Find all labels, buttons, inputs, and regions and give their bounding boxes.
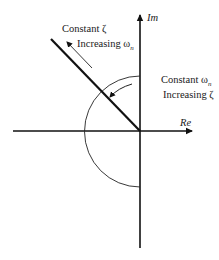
constant-zeta-label: Constant ζ xyxy=(62,23,106,35)
s-plane-diagram: Im Re Constant ζ Increasing ωn Constant … xyxy=(0,0,219,260)
real-axis-label: Re xyxy=(180,117,191,129)
imaginary-axis-label: Im xyxy=(147,12,158,24)
constant-omega-text: Constant ω xyxy=(161,74,208,85)
increasing-zeta-label: Increasing ζ xyxy=(163,89,214,101)
constant-omega-label: Constant ωn xyxy=(161,74,211,90)
omega-subscript-2: n xyxy=(208,80,212,88)
increasing-omega-label: Increasing ωn xyxy=(77,38,134,54)
increasing-zeta-arrow xyxy=(110,84,132,97)
increasing-omega-text: Increasing ω xyxy=(77,38,130,49)
omega-subscript: n xyxy=(130,44,134,52)
